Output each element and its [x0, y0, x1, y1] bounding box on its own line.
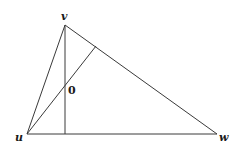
orthocenter-label: 0	[68, 84, 76, 97]
edge-uv	[27, 25, 65, 134]
triangle-diagram: v u w 0	[0, 0, 242, 152]
edge-vw	[65, 25, 217, 134]
altitude-from-u	[27, 46, 96, 134]
vertex-label-u: u	[15, 131, 23, 144]
vertex-label-w: w	[219, 131, 229, 144]
vertex-label-v: v	[61, 10, 68, 23]
